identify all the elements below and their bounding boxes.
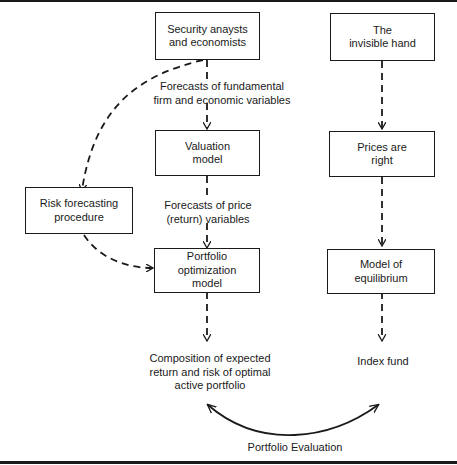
box-model-of-equilibrium-text: Model of equilibrium	[354, 258, 407, 285]
label-forecasts-fundamental: Forecasts of fundamental firm and econom…	[142, 80, 302, 107]
label-composition: Composition of expected return and risk …	[140, 352, 280, 393]
label-forecasts-price: Forecasts of price (return) variables	[150, 199, 266, 226]
box-valuation-model-text: Valuation model	[185, 140, 230, 167]
label-composition-text: Composition of expected return and risk …	[149, 352, 270, 391]
box-model-of-equilibrium: Model of equilibrium	[327, 249, 435, 294]
box-valuation-model: Valuation model	[155, 130, 260, 176]
box-portfolio-optimization-text: Portfolio optimization model	[178, 250, 237, 291]
label-index-fund: Index fund	[350, 355, 416, 369]
portfolio-management-diagram: Security anaysts and economists The invi…	[0, 0, 457, 465]
box-security-analysts: Security anaysts and economists	[155, 12, 260, 60]
bottom-rule	[0, 461, 457, 464]
box-security-analysts-text: Security anaysts and economists	[167, 23, 248, 50]
box-invisible-hand-text: The invisible hand	[349, 24, 416, 51]
box-risk-forecasting-text: Risk forecasting procedure	[40, 197, 118, 224]
box-prices-are-right-text: Prices are right	[357, 141, 407, 168]
label-forecasts-fundamental-text: Forecasts of fundamental firm and econom…	[154, 80, 291, 106]
box-prices-are-right: Prices are right	[329, 131, 435, 177]
box-invisible-hand: The invisible hand	[330, 13, 435, 61]
label-forecasts-price-text: Forecasts of price (return) variables	[164, 199, 251, 225]
box-risk-forecasting: Risk forecasting procedure	[25, 187, 133, 234]
label-portfolio-evaluation: Portfolio Evaluation	[240, 441, 350, 455]
label-index-fund-text: Index fund	[357, 355, 408, 367]
label-portfolio-evaluation-text: Portfolio Evaluation	[248, 441, 343, 453]
box-portfolio-optimization: Portfolio optimization model	[154, 248, 260, 293]
